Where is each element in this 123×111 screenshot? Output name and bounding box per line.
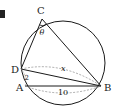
segment-label-DB: x bbox=[61, 64, 66, 73]
point-label-B: B bbox=[104, 82, 111, 93]
point-label-D: D bbox=[11, 64, 19, 75]
cyclic-quadrilateral-diagram: C D A B θ x 2 10 bbox=[0, 0, 123, 111]
segment-label-AB: 10 bbox=[58, 88, 68, 97]
point-label-A: A bbox=[15, 82, 24, 93]
angle-label-theta: θ bbox=[40, 28, 45, 37]
angle-arc-C bbox=[40, 24, 47, 26]
segment-label-DA: 2 bbox=[25, 74, 29, 82]
point-label-C: C bbox=[37, 5, 45, 16]
segment-CB bbox=[42, 19, 101, 86]
segment-CD bbox=[21, 19, 42, 69]
problem-marker-icon bbox=[0, 10, 5, 18]
